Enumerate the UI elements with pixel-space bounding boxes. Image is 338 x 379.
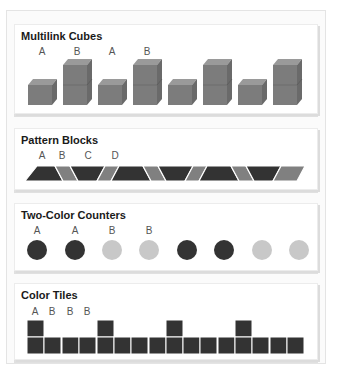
pattern-blocks-icon xyxy=(15,129,317,189)
multilink-cubes-panel: Multilink Cubes A B A B xyxy=(14,24,318,114)
pattern-blocks-panel: Pattern Blocks A B C D xyxy=(14,128,318,190)
color-tiles-icon xyxy=(15,284,317,359)
two-color-counters-icon xyxy=(15,204,317,270)
multilink-cubes-icon xyxy=(15,25,317,113)
two-color-counters-panel: Two-Color Counters A A B B xyxy=(14,203,318,271)
color-tiles-panel: Color Tiles A B B B xyxy=(14,283,318,360)
